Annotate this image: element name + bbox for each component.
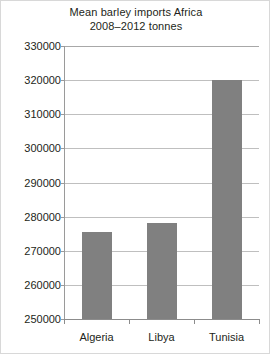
bar-tunisia (212, 80, 242, 319)
x-axis-tick-mark (64, 319, 65, 324)
gridline (64, 46, 259, 47)
y-axis-tick-label: 260000 (3, 280, 61, 291)
bar-chart-figure: Mean barley imports Africa 2008–2012 ton… (0, 0, 270, 354)
y-axis-tick-label: 250000 (3, 314, 61, 325)
y-axis-tick-label: 310000 (3, 109, 61, 120)
y-axis-tick-label: 300000 (3, 143, 61, 154)
bar-libya (147, 223, 177, 319)
x-axis-category-label: Tunisia (194, 331, 259, 344)
x-axis-tick-mark (129, 319, 130, 324)
y-axis-line (64, 46, 65, 320)
y-axis-tick-label: 320000 (3, 75, 61, 86)
x-axis-line (64, 319, 259, 320)
y-axis-tick-labels: 3300003200003100003000002900002800002700… (1, 1, 61, 354)
x-axis-tick-mark (259, 319, 260, 324)
y-axis-tick-label: 270000 (3, 246, 61, 257)
y-axis-tick-label: 280000 (3, 212, 61, 223)
plot-area (64, 46, 259, 319)
y-axis-tick-label: 290000 (3, 178, 61, 189)
x-axis-tick-mark (194, 319, 195, 324)
bar-algeria (82, 232, 112, 319)
x-axis-category-label: Algeria (64, 331, 129, 344)
x-axis-category-label: Libya (129, 331, 194, 344)
y-axis-tick-label: 330000 (3, 41, 61, 52)
